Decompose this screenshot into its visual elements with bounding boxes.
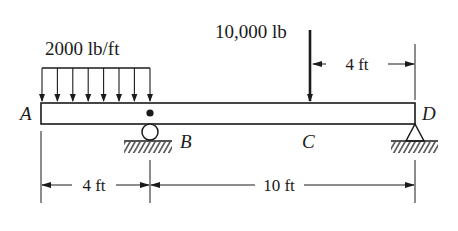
point-label-a: A [18, 103, 32, 124]
dim-bottom-left-label: 4 ft [82, 176, 105, 195]
point-load-label: 10,000 lb [215, 21, 287, 42]
point-load: 10,000 lb [215, 21, 310, 101]
load-arrows-icon [42, 68, 150, 101]
roller-support-icon [124, 124, 172, 153]
hinge-dot-icon [146, 109, 153, 116]
pin-support-icon [391, 124, 438, 153]
svg-text:4 ft: 4 ft [345, 55, 368, 74]
distributed-load-label: 2000 lb/ft [45, 38, 120, 59]
beam [41, 103, 415, 124]
point-label-d: D [421, 103, 436, 124]
dimension-top-right: 4 ft [313, 44, 415, 100]
distributed-load: 2000 lb/ft [42, 38, 150, 101]
point-label-b: B [180, 131, 192, 152]
beam-diagram: 2000 lb/ft 10,000 lb 4 ft A D B C [0, 0, 458, 231]
point-label-c: C [302, 131, 315, 152]
dimension-bottom: 4 ft 10 ft [41, 131, 415, 203]
dim-bottom-right-label: 10 ft [263, 176, 295, 195]
